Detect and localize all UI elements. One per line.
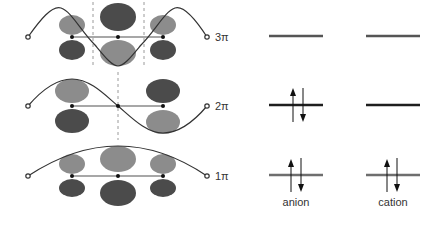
lobe-light: [100, 40, 136, 66]
endpoint-circle: [205, 104, 209, 108]
endpoint-circle: [26, 35, 30, 39]
column-label-cation: cation: [378, 196, 407, 208]
lobe-light: [59, 15, 85, 35]
lobe-dark: [146, 79, 180, 103]
lobe-light: [100, 146, 136, 172]
atom-dot: [116, 174, 120, 178]
lobe-dark: [100, 3, 136, 31]
energy-level-diagram: anion cation: [269, 36, 420, 208]
atom-dot: [116, 104, 120, 108]
endpoint-circle: [205, 174, 209, 178]
orbital-2pi: 2π: [26, 72, 229, 140]
lobe-dark: [59, 179, 85, 197]
orbital-1pi: 1π: [26, 146, 229, 206]
lobe-dark: [55, 109, 89, 133]
atom-dot: [116, 35, 120, 39]
atom-dot: [161, 174, 165, 178]
lobe-dark: [100, 180, 136, 206]
arrowhead-up-icon: [384, 159, 390, 167]
arrowhead-up-icon: [290, 88, 296, 96]
lobe-dark: [150, 40, 176, 60]
allyl-mo-diagram: 3π 2π: [0, 0, 441, 232]
orbital-label-1pi: 1π: [215, 170, 229, 182]
orbital-label-3pi: 3π: [215, 31, 229, 43]
arrowhead-up-icon: [288, 159, 294, 167]
atom-dot: [161, 35, 165, 39]
orbital-3pi: 3π: [26, 2, 229, 68]
lobe-dark: [150, 179, 176, 197]
arrowhead-down-icon: [298, 184, 304, 192]
column-label-anion: anion: [283, 196, 310, 208]
arrowhead-down-icon: [300, 114, 306, 122]
endpoint-circle: [26, 104, 30, 108]
atom-dot: [70, 174, 74, 178]
arrowhead-down-icon: [394, 184, 400, 192]
atom-dot: [70, 104, 74, 108]
lobe-dark: [59, 40, 85, 60]
atom-dot: [70, 35, 74, 39]
lobe-light: [55, 79, 89, 103]
atom-dot: [161, 104, 165, 108]
orbital-label-2pi: 2π: [215, 100, 229, 112]
endpoint-circle: [26, 174, 30, 178]
endpoint-circle: [205, 35, 209, 39]
